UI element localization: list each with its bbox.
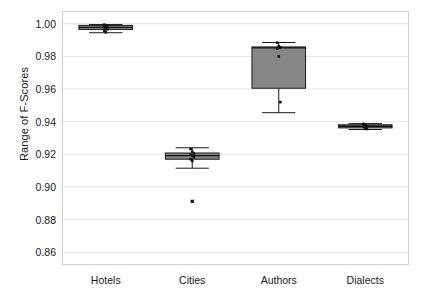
box-dialects — [338, 123, 392, 131]
box-cities — [165, 148, 219, 203]
y-tick-label: 0.96 — [14, 83, 56, 95]
y-tick-label: 0.86 — [14, 246, 56, 258]
data-point — [276, 41, 279, 44]
data-point — [366, 128, 369, 131]
y-axis-tick-labels: 0.860.880.900.920.940.960.981.00 — [12, 0, 56, 298]
grid-lines — [63, 24, 409, 253]
data-point — [193, 152, 196, 155]
box-authors — [252, 41, 306, 112]
data-point — [104, 31, 107, 34]
box-body — [252, 47, 306, 88]
boxplot-figure: Range of F-Scores 0.860.880.900.920.940.… — [0, 0, 426, 298]
data-point — [189, 148, 192, 151]
y-tick-label: 0.88 — [14, 214, 56, 226]
y-tick-label: 0.94 — [14, 116, 56, 128]
y-tick-label: 0.92 — [14, 148, 56, 160]
box-plots — [79, 23, 392, 203]
y-tick-label: 0.90 — [14, 181, 56, 193]
x-tick-label-authors: Authors — [261, 274, 297, 286]
plot-area — [0, 0, 426, 298]
data-point — [276, 47, 279, 50]
data-point — [277, 55, 280, 58]
data-point — [193, 156, 196, 159]
outlier-point — [191, 200, 194, 203]
axes-frame — [63, 12, 409, 265]
box-hotels — [79, 23, 133, 33]
data-point — [191, 160, 194, 163]
x-tick-label-hotels: Hotels — [91, 274, 121, 286]
data-point — [279, 101, 282, 104]
x-tick-label-dialects: Dialects — [347, 274, 384, 286]
y-tick-label: 1.00 — [14, 18, 56, 30]
data-point — [279, 46, 282, 49]
x-tick-label-cities: Cities — [179, 274, 205, 286]
y-tick-label: 0.98 — [14, 50, 56, 62]
data-point — [106, 28, 109, 31]
